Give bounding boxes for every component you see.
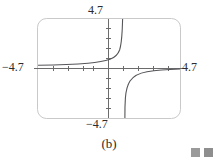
window-ymax-label: 4.7 (88, 4, 103, 16)
window-xmax-label: 4.7 (182, 61, 197, 73)
swatch-square-1 (191, 148, 200, 157)
figure-caption: (b) (0, 136, 218, 152)
window-xmin-label: −4.7 (2, 61, 24, 73)
window-ymin-label: −4.7 (86, 118, 108, 130)
swatch-square-2 (204, 148, 213, 157)
graphing-calculator-figure: 4.7 −4.7 −4.7 4.7 (b) (0, 0, 218, 162)
color-swatch-group (191, 148, 213, 157)
